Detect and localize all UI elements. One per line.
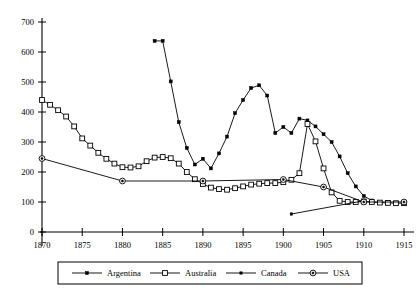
data-point-argentina — [169, 80, 172, 83]
legend-item-argentina[interactable]: Argentina — [72, 268, 141, 278]
data-point-argentina — [338, 155, 341, 158]
data-point-argentina — [209, 167, 212, 170]
data-point-australia — [265, 181, 270, 186]
data-point-argentina — [274, 132, 277, 135]
series-australia — [40, 98, 407, 206]
legend-label-argentina: Argentina — [107, 268, 141, 278]
legend-label-australia: Australia — [185, 268, 216, 278]
x-tick-label: 1900 — [275, 240, 292, 250]
data-point-usa-center — [41, 157, 43, 159]
data-point-australia — [313, 139, 318, 144]
data-point-argentina — [266, 94, 269, 97]
data-point-usa-center — [363, 201, 365, 203]
data-point-australia — [217, 187, 222, 192]
series-line-argentina — [155, 41, 372, 201]
data-point-australia — [128, 165, 133, 170]
data-point-australia — [80, 136, 85, 141]
y-tick-label: 500 — [21, 77, 34, 87]
data-point-argentina — [226, 135, 229, 138]
series-layer — [39, 39, 407, 215]
data-point-argentina — [290, 132, 293, 135]
legend-item-canada[interactable]: Canada — [226, 268, 287, 278]
data-point-argentina — [217, 152, 220, 155]
data-point-australia — [377, 200, 382, 205]
data-point-australia — [152, 155, 157, 160]
series-line-usa — [42, 159, 404, 203]
y-tick-label: 700 — [21, 17, 34, 27]
data-point-australia — [241, 184, 246, 189]
y-tick-label: 400 — [21, 107, 34, 117]
data-point-argentina — [242, 99, 245, 102]
y-tick-label: 300 — [21, 137, 34, 147]
data-point-usa-center — [202, 180, 204, 182]
data-point-australia — [184, 170, 189, 175]
data-point-australia — [112, 161, 117, 166]
data-point-australia — [225, 187, 230, 192]
data-point-australia — [273, 181, 278, 186]
data-point-australia — [64, 114, 69, 119]
legend-label-usa: USA — [333, 268, 351, 278]
x-tick-label: 1895 — [235, 240, 252, 250]
y-tick-label: 0 — [30, 227, 34, 237]
data-point-canada — [290, 213, 292, 215]
x-tick-label: 1915 — [396, 240, 413, 250]
data-point-argentina — [193, 163, 196, 166]
y-tick-label: 600 — [21, 47, 34, 57]
data-point-australia — [88, 143, 93, 148]
data-point-australia — [136, 164, 141, 169]
data-point-australia — [104, 156, 109, 161]
data-point-australia — [386, 201, 391, 206]
data-point-australia — [40, 98, 45, 103]
data-point-usa-center — [121, 180, 123, 182]
x-tick-label: 1910 — [355, 240, 372, 250]
data-point-australia — [321, 166, 326, 171]
data-point-australia — [160, 155, 165, 160]
x-tick-label: 1905 — [315, 240, 332, 250]
data-point-australia — [176, 161, 181, 166]
x-tick-label: 1880 — [114, 240, 131, 250]
x-tick-label: 1890 — [194, 240, 211, 250]
data-point-australia — [209, 185, 214, 190]
x-axis: 1870187518801885189018951900190519101915 — [34, 228, 415, 250]
data-point-argentina — [201, 157, 204, 160]
series-line-canada — [291, 201, 363, 214]
data-point-australia — [249, 182, 254, 187]
data-point-australia — [48, 102, 53, 107]
data-point-australia — [233, 186, 238, 191]
data-point-argentina — [282, 126, 285, 129]
data-point-australia — [144, 159, 149, 164]
data-point-argentina — [250, 87, 253, 90]
data-point-usa-center — [322, 186, 324, 188]
data-point-argentina — [354, 185, 357, 188]
data-point-argentina — [161, 39, 164, 42]
data-point-argentina — [177, 121, 180, 124]
data-point-argentina — [153, 39, 156, 42]
legend-item-australia[interactable]: Australia — [150, 268, 216, 278]
data-point-australia — [394, 201, 399, 206]
x-tick-label: 1870 — [34, 240, 51, 250]
data-point-argentina — [322, 133, 325, 136]
legend-item-usa[interactable]: USA — [298, 268, 351, 278]
y-axis: 0100200300400500600700 — [21, 17, 46, 246]
data-point-australia — [120, 165, 125, 170]
data-point-argentina — [330, 141, 333, 144]
data-point-argentina — [234, 112, 237, 115]
data-point-australia — [96, 150, 101, 155]
chart-legend: ArgentinaAustraliaCanadaUSA — [58, 262, 362, 284]
data-point-australia — [297, 171, 302, 176]
data-point-argentina — [362, 195, 365, 198]
data-point-argentina — [346, 172, 349, 175]
data-point-australia — [257, 181, 262, 186]
legend-marker-usa-center — [312, 272, 314, 274]
data-point-australia — [168, 156, 173, 161]
data-point-argentina — [298, 117, 301, 120]
data-point-australia — [305, 122, 310, 127]
data-point-australia — [72, 124, 77, 129]
legend-marker-canada — [240, 272, 242, 274]
x-tick-label: 1885 — [154, 240, 171, 250]
data-point-usa-center — [282, 178, 284, 180]
data-point-argentina — [314, 125, 317, 128]
chart-container: 0100200300400500600700 18701875188018851… — [0, 0, 416, 297]
legend-marker-argentina — [86, 272, 89, 275]
data-point-argentina — [258, 84, 261, 87]
